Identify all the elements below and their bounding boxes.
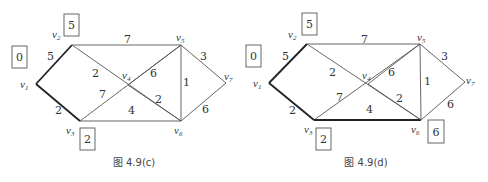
node-label-v3: v3 (66, 124, 75, 138)
edge-weight-label: 7 (124, 33, 131, 46)
edge-weight-label: 5 (47, 50, 54, 63)
distance-value: 0 (250, 50, 257, 63)
node-label-v4: v4 (122, 69, 131, 83)
edge-weight-label: 2 (55, 104, 62, 117)
edge-weight-label: 1 (183, 76, 190, 89)
edge-weight-label: 3 (441, 50, 448, 63)
edge-weight-label: 3 (200, 50, 207, 63)
edge-weight-label: 2 (155, 93, 162, 106)
figure-4-9c: 52727413662v1v2v3v4v5v6v7052图 4.9(c) (12, 14, 233, 168)
node-label-v2: v2 (288, 28, 297, 42)
edge-weight-label: 1 (424, 75, 431, 88)
edge-weight-label: 2 (329, 66, 336, 79)
node-label-v6: v6 (411, 123, 420, 137)
distance-value: 5 (68, 19, 75, 32)
edge-v5-v6 (420, 44, 421, 120)
distance-value: 6 (433, 126, 440, 139)
node-label-v3: v3 (304, 123, 313, 137)
edge-weight-label: 6 (447, 98, 454, 111)
edge-weight-label: 2 (92, 67, 99, 80)
edge-weight-label: 2 (289, 104, 296, 117)
node-label-v1: v1 (253, 77, 261, 91)
figure-caption: 图 4.9(c) (113, 157, 155, 168)
distance-value: 5 (306, 18, 313, 31)
distance-value: 2 (84, 133, 91, 146)
edge-weight-label: 4 (366, 103, 373, 116)
edge-weight-label: 4 (128, 104, 135, 117)
node-label-v2: v2 (52, 28, 61, 42)
distance-value: 0 (16, 51, 23, 64)
node-label-v7: v7 (224, 70, 233, 84)
edge-weight-label: 7 (336, 91, 343, 104)
edge-weight-label: 5 (282, 50, 289, 63)
shortest-path-diagrams: 52727413662v1v2v3v4v5v6v7052图 4.9(c) 527… (0, 0, 488, 182)
edge-weight-label: 6 (150, 67, 157, 80)
edge-weight-label: 2 (396, 92, 403, 105)
node-label-v5: v5 (417, 31, 426, 45)
figure-4-9d: 52727413662v1v2v3v4v5v6v70526图 4.9(d) (246, 13, 475, 168)
edge-v4-v6 (368, 84, 421, 120)
node-label-v7: v7 (466, 74, 475, 88)
node-label-v6: v6 (174, 124, 183, 138)
figure-caption: 图 4.9(d) (344, 157, 387, 168)
edge-weight-label: 6 (202, 103, 209, 116)
edge-weight-label: 7 (361, 33, 368, 46)
node-label-v4: v4 (362, 69, 371, 83)
edge-weight-label: 6 (388, 66, 395, 79)
node-label-v1: v1 (20, 78, 28, 92)
edge-weight-label: 7 (99, 88, 106, 101)
edge-v1-v2 (36, 45, 72, 84)
node-label-v5: v5 (176, 31, 185, 45)
distance-value: 2 (320, 133, 327, 146)
